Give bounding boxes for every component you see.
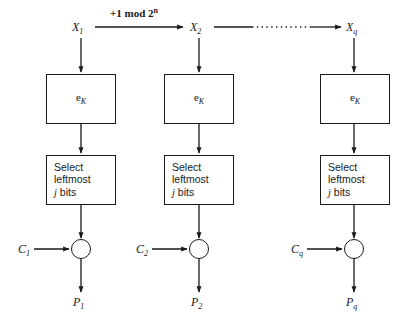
encrypt-box-1-label: eK [76, 92, 86, 106]
xor-gate-1 [71, 239, 91, 259]
select-bits-box-1-line2: leftmost [54, 173, 115, 185]
plaintext-label-pq: Pq [346, 296, 357, 308]
encrypt-box-1: eK [46, 74, 116, 124]
select-bits-box-q-line1: Select [328, 161, 389, 173]
select-bits-box-2-line1: Select [172, 161, 233, 173]
xor-gate-2 [189, 239, 209, 259]
select-bits-box-q: Select leftmost j bits [320, 155, 390, 205]
plaintext-label-p1: P1 [73, 296, 84, 308]
select-bits-box-2-line2: leftmost [172, 173, 233, 185]
ciphertext-label-c1: C1 [18, 243, 30, 255]
select-bits-box-q-line3: j bits [328, 186, 389, 199]
encrypt-box-q: eK [320, 74, 390, 124]
counter-increment-label: +1 mod 2n [110, 8, 158, 19]
counter-label-x1: X1 [72, 21, 83, 33]
ciphertext-label-c2: C2 [136, 243, 148, 255]
select-bits-box-2: Select leftmost j bits [164, 155, 234, 205]
encrypt-box-2: eK [164, 74, 234, 124]
xor-gate-q [344, 239, 364, 259]
ctr-mode-diagram: +1 mod 2n X1 X2 Xq eK eK eK Select leftm… [0, 0, 401, 319]
select-bits-box-1-line1: Select [54, 161, 115, 173]
encrypt-box-2-label: eK [194, 92, 204, 106]
counter-label-xq: Xq [346, 21, 357, 33]
select-bits-box-2-line3: j bits [172, 186, 233, 199]
select-bits-box-1-line3: j bits [54, 186, 115, 199]
select-bits-box-q-line2: leftmost [328, 173, 389, 185]
select-bits-box-1: Select leftmost j bits [46, 155, 116, 205]
plaintext-label-p2: P2 [191, 296, 202, 308]
encrypt-box-q-label: eK [350, 92, 360, 106]
counter-label-x2: X2 [190, 21, 201, 33]
ciphertext-label-cq: Cq [291, 243, 303, 255]
